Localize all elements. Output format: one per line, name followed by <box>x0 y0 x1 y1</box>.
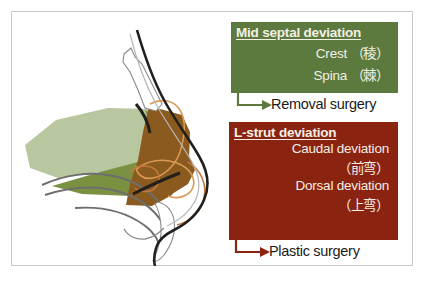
lateral-nose-anatomy-diagram <box>12 12 237 266</box>
outcome-plastic-surgery: Plastic surgery <box>269 243 360 259</box>
columella-outline <box>124 228 164 239</box>
panel-line-caudal-jp: （前弯） <box>229 157 398 177</box>
panel-mid-septal-deviation: Mid septal deviation Crest （稜） Spina （棘） <box>231 22 398 93</box>
panel-line-caudal: Caudal deviation <box>229 141 398 156</box>
elbow-arrow-plastic-icon <box>234 239 272 265</box>
panel-line-crest: Crest （稜） <box>231 42 398 62</box>
turbinate-line-bottom <box>75 208 162 254</box>
panel-line-spina: Spina （棘） <box>231 64 398 84</box>
panel-line-dorsal: Dorsal deviation <box>229 178 398 193</box>
elbow-arrow-removal-icon <box>236 92 274 118</box>
panel-title-l-strut: L-strut deviation <box>229 122 398 140</box>
outcome-removal-surgery: Removal surgery <box>271 96 376 112</box>
panel-line-dorsal-jp: （上弯） <box>229 194 398 214</box>
panel-l-strut-deviation: L-strut deviation Caudal deviation （前弯） … <box>229 122 398 240</box>
panel-title-mid-septal: Mid septal deviation <box>231 22 398 40</box>
figure-canvas: Mid septal deviation Crest （稜） Spina （棘）… <box>0 0 425 288</box>
